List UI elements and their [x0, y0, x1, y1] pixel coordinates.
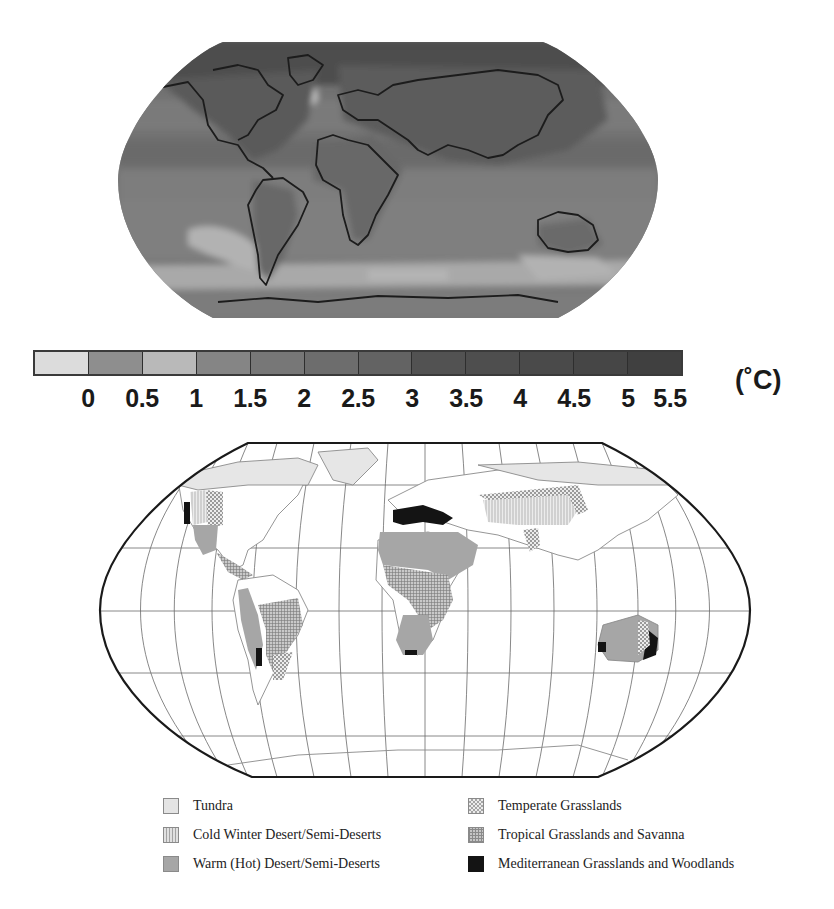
colorbar-tick: 5.5 — [653, 384, 686, 413]
colorbar-cell — [412, 352, 466, 374]
colorbar-tick: 1 — [189, 384, 202, 413]
legend-item-tropical-grasslands: Tropical Grasslands and Savanna — [468, 825, 685, 845]
colorbar-tick: 4 — [513, 384, 526, 413]
colorbar-tick: 4.5 — [557, 384, 590, 413]
legend-label: Mediterranean Grasslands and Woodlands — [498, 856, 734, 872]
legend-label: Temperate Grasslands — [498, 798, 622, 814]
legend-item-warm-desert: Warm (Hot) Desert/Semi-Deserts — [163, 854, 380, 874]
colorbar-cell — [466, 352, 520, 374]
colorbar-cell — [197, 352, 251, 374]
legend-item-temperate-grasslands: Temperate Grasslands — [468, 796, 622, 816]
colorbar-cell — [251, 352, 305, 374]
colorbar-cell — [574, 352, 628, 374]
cold-winter-desert-swatch — [163, 827, 179, 843]
legend-item-mediterranean: Mediterranean Grasslands and Woodlands — [468, 854, 734, 874]
colorbar-cell — [35, 352, 89, 374]
biome-map — [98, 440, 752, 780]
colorbar-tick: 2 — [297, 384, 310, 413]
legend-label: Tropical Grasslands and Savanna — [498, 827, 685, 843]
colorbar-unit-label: (˚C) — [735, 365, 781, 396]
legend-item-cold-winter-desert: Cold Winter Desert/Semi-Deserts — [163, 825, 381, 845]
temperate-grasslands-swatch — [468, 798, 484, 814]
colorbar-tick: 2.5 — [341, 384, 374, 413]
colorbar-cell — [359, 352, 413, 374]
legend-label: Warm (Hot) Desert/Semi-Deserts — [193, 856, 380, 872]
tropical-grasslands-swatch — [468, 827, 484, 843]
colorbar-tick: 0.5 — [125, 384, 158, 413]
colorbar-tick: 0 — [81, 384, 94, 413]
colorbar-tick: 1.5 — [233, 384, 266, 413]
colorbar-cell — [520, 352, 574, 374]
colorbar-tick: 3 — [405, 384, 418, 413]
legend-label: Tundra — [193, 798, 233, 814]
warm-desert-swatch — [163, 856, 179, 872]
colorbar-tick: 5 — [621, 384, 634, 413]
colorbar-cell — [143, 352, 197, 374]
colorbar-cell — [305, 352, 359, 374]
mediterranean-swatch — [468, 856, 484, 872]
colorbar-tick: 3.5 — [449, 384, 482, 413]
colorbar-cell — [628, 352, 681, 374]
temperature-change-map — [118, 40, 658, 320]
legend-label: Cold Winter Desert/Semi-Deserts — [193, 827, 381, 843]
tundra-swatch — [163, 798, 179, 814]
temperature-colorbar — [33, 350, 683, 376]
colorbar-cell — [89, 352, 143, 374]
legend-item-tundra: Tundra — [163, 796, 233, 816]
